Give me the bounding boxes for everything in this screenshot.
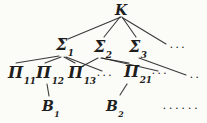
edge-k-sigma3 <box>122 17 136 37</box>
ellipsis-after-k: ... <box>170 41 187 49</box>
node-pi13: Π13 <box>68 65 96 84</box>
node-pi11: Π11 <box>8 65 36 84</box>
edge-k-sigma1 <box>68 17 121 39</box>
edge-pi21-b2 <box>120 84 127 95</box>
node-sigma2: Σ2 <box>94 39 112 58</box>
edge-pi12-b1 <box>47 84 49 96</box>
node-b2: B2 <box>106 99 123 117</box>
ellipsis-after-pi13: ... <box>97 69 114 77</box>
node-pi12: Π12 <box>36 65 64 84</box>
ellipsis-right-mid: .. <box>190 71 202 79</box>
ellipsis-after-pi21: ... <box>152 67 169 75</box>
tree-diagram-figure: K Σ1 Σ2 Σ3 Π11 Π12 Π13 Π21 B1 B2 ... ...… <box>0 0 207 123</box>
edge-sigma1-pi11 <box>16 56 59 63</box>
diagram-canvas: K Σ1 Σ2 Σ3 Π11 Π12 Π13 Π21 B1 B2 ... ...… <box>0 0 207 123</box>
node-b1: B1 <box>42 99 59 117</box>
node-k: K <box>115 3 127 17</box>
node-sigma1: Σ1 <box>56 37 74 56</box>
edge-k-sigma2 <box>104 17 120 37</box>
ellipsis-bottom-right: ...... <box>163 102 201 110</box>
node-sigma3: Σ3 <box>129 39 147 58</box>
node-pi21: Π21 <box>124 64 152 83</box>
